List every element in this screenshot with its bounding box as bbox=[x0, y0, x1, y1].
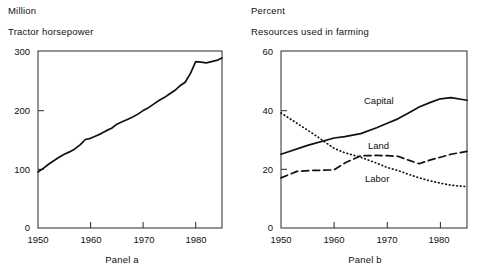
panel-b-x-ticks bbox=[334, 222, 440, 228]
panel-b-line-capital bbox=[281, 98, 467, 155]
panel-a-axes-frame bbox=[38, 51, 222, 228]
panel-b-line-land bbox=[281, 151, 467, 178]
panel-b-axes-frame bbox=[281, 51, 467, 228]
panel-b: Percent Resources used in farming 60 40 … bbox=[243, 0, 486, 274]
panel-a-line-tractor-horsepower bbox=[38, 58, 222, 172]
panel-b-line-labor bbox=[281, 113, 467, 187]
panel-b-y-ticks bbox=[281, 111, 287, 170]
figure-root: Million Tractor horsepower 300 200 100 0… bbox=[0, 0, 486, 274]
panel-a-y-ticks bbox=[38, 111, 44, 170]
panel-b-plot bbox=[243, 0, 486, 274]
panel-a-plot bbox=[0, 0, 243, 274]
panel-a: Million Tractor horsepower 300 200 100 0… bbox=[0, 0, 243, 274]
panel-a-x-ticks bbox=[91, 222, 196, 228]
